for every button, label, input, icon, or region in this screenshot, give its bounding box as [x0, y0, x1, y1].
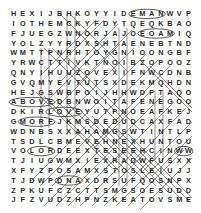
grid-cell[interactable]: N: [64, 176, 73, 186]
grid-cell[interactable]: Q: [147, 19, 156, 29]
grid-cell[interactable]: T: [101, 107, 110, 117]
grid-cell[interactable]: E: [175, 107, 184, 117]
grid-cell[interactable]: J: [119, 29, 128, 39]
grid-cell[interactable]: F: [184, 48, 193, 58]
grid-cell[interactable]: B: [156, 38, 165, 48]
grid-cell[interactable]: E: [156, 97, 165, 107]
grid-cell[interactable]: J: [18, 29, 27, 39]
grid-cell[interactable]: W: [83, 97, 92, 107]
grid-cell[interactable]: Z: [73, 68, 82, 78]
grid-cell[interactable]: E: [92, 136, 101, 146]
grid-cell[interactable]: T: [83, 185, 92, 195]
grid-cell[interactable]: X: [129, 136, 138, 146]
grid-cell[interactable]: E: [138, 97, 147, 107]
grid-cell[interactable]: P: [175, 176, 184, 186]
grid-cell[interactable]: E: [73, 136, 82, 146]
grid-cell[interactable]: N: [119, 48, 128, 58]
grid-cell[interactable]: F: [129, 68, 138, 78]
grid-cell[interactable]: O: [119, 166, 128, 176]
grid-cell[interactable]: E: [92, 156, 101, 166]
grid-cell[interactable]: Z: [55, 29, 64, 39]
grid-cell[interactable]: K: [64, 117, 73, 127]
grid-cell[interactable]: O: [138, 48, 147, 58]
grid-cell[interactable]: T: [165, 136, 174, 146]
grid-cell[interactable]: F: [9, 29, 18, 39]
grid-cell[interactable]: M: [147, 78, 156, 88]
grid-cell[interactable]: N: [156, 136, 165, 146]
grid-cell[interactable]: W: [9, 48, 18, 58]
grid-cell[interactable]: G: [119, 185, 128, 195]
grid-cell[interactable]: U: [165, 166, 174, 176]
grid-cell[interactable]: Q: [184, 29, 193, 39]
grid-cell[interactable]: Y: [83, 107, 92, 117]
grid-cell[interactable]: D: [73, 38, 82, 48]
grid-cell[interactable]: M: [83, 166, 92, 176]
grid-cell[interactable]: N: [138, 38, 147, 48]
grid-cell[interactable]: I: [129, 48, 138, 58]
grid-cell[interactable]: I: [101, 97, 110, 107]
grid-cell[interactable]: O: [147, 176, 156, 186]
grid-cell[interactable]: W: [138, 156, 147, 166]
grid-cell[interactable]: Y: [27, 68, 36, 78]
grid-cell[interactable]: W: [64, 29, 73, 39]
grid-cell[interactable]: G: [46, 29, 55, 39]
grid-cell[interactable]: O: [18, 146, 27, 156]
grid-cell[interactable]: X: [110, 68, 119, 78]
grid-cell[interactable]: V: [37, 195, 46, 205]
grid-cell[interactable]: D: [184, 117, 193, 127]
grid-cell[interactable]: W: [9, 127, 18, 137]
grid-cell[interactable]: J: [101, 29, 110, 39]
grid-cell[interactable]: U: [64, 68, 73, 78]
grid-cell[interactable]: N: [18, 68, 27, 78]
grid-cell[interactable]: E: [138, 29, 147, 39]
grid-cell[interactable]: D: [138, 87, 147, 97]
grid-cell[interactable]: U: [55, 68, 64, 78]
grid-cell[interactable]: F: [129, 97, 138, 107]
grid-cell[interactable]: I: [64, 58, 73, 68]
grid-cell[interactable]: U: [83, 78, 92, 88]
grid-cell[interactable]: B: [55, 136, 64, 146]
grid-cell[interactable]: A: [147, 107, 156, 117]
grid-cell[interactable]: V: [9, 146, 18, 156]
grid-cell[interactable]: E: [129, 78, 138, 88]
grid-cell[interactable]: I: [92, 87, 101, 97]
grid-cell[interactable]: T: [9, 136, 18, 146]
grid-cell[interactable]: O: [37, 146, 46, 156]
grid-cell[interactable]: C: [64, 19, 73, 29]
grid-cell[interactable]: P: [156, 58, 165, 68]
grid-cell[interactable]: D: [92, 176, 101, 186]
grid-cell[interactable]: S: [156, 185, 165, 195]
grid-cell[interactable]: O: [147, 48, 156, 58]
grid-cell[interactable]: D: [129, 117, 138, 127]
grid-cell[interactable]: L: [37, 136, 46, 146]
grid-cell[interactable]: Z: [64, 185, 73, 195]
grid-cell[interactable]: E: [184, 195, 193, 205]
grid-cell[interactable]: M: [37, 78, 46, 88]
grid-cell[interactable]: N: [101, 58, 110, 68]
grid-cell[interactable]: O: [147, 58, 156, 68]
grid-cell[interactable]: X: [64, 127, 73, 137]
grid-cell[interactable]: T: [9, 176, 18, 186]
grid-cell[interactable]: J: [101, 87, 110, 97]
grid-cell[interactable]: T: [110, 166, 119, 176]
grid-cell[interactable]: R: [64, 48, 73, 58]
grid-cell[interactable]: P: [147, 87, 156, 97]
grid-cell[interactable]: E: [138, 19, 147, 29]
grid-cell[interactable]: S: [101, 185, 110, 195]
grid-cell[interactable]: Y: [27, 166, 36, 176]
grid-cell[interactable]: T: [138, 127, 147, 137]
grid-cell[interactable]: W: [165, 9, 174, 19]
grid-cell[interactable]: H: [119, 87, 128, 97]
grid-cell[interactable]: H: [9, 9, 18, 19]
grid-cell[interactable]: I: [156, 146, 165, 156]
grid-cell[interactable]: O: [18, 19, 27, 29]
grid-cell[interactable]: Z: [64, 195, 73, 205]
grid-cell[interactable]: P: [18, 185, 27, 195]
grid-cell[interactable]: E: [147, 166, 156, 176]
grid-cell[interactable]: I: [175, 29, 184, 39]
grid-cell[interactable]: O: [147, 195, 156, 205]
grid-cell[interactable]: H: [73, 48, 82, 58]
grid-cell[interactable]: E: [73, 146, 82, 156]
grid-cell[interactable]: H: [9, 87, 18, 97]
grid-cell[interactable]: C: [46, 136, 55, 146]
